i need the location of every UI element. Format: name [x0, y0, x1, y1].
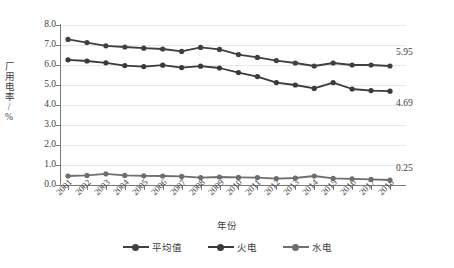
data-point	[198, 64, 203, 69]
data-point	[103, 43, 108, 48]
data-point	[387, 177, 392, 182]
data-point	[217, 47, 222, 52]
data-point	[236, 52, 241, 57]
data-point	[293, 60, 298, 65]
data-point	[198, 45, 203, 50]
data-point	[160, 63, 165, 68]
data-point	[255, 175, 260, 180]
end-value-label: 4.69	[396, 98, 413, 108]
data-point	[312, 86, 317, 91]
data-point	[141, 46, 146, 51]
data-point	[274, 58, 279, 63]
series-2	[65, 171, 392, 182]
data-point	[141, 64, 146, 69]
legend-label: 火电	[237, 240, 257, 254]
data-point	[179, 174, 184, 179]
data-point	[350, 86, 355, 91]
end-value-label: 5.95	[396, 47, 413, 57]
data-point	[84, 173, 89, 178]
x-axis-title: 年份	[0, 218, 454, 232]
data-point	[387, 63, 392, 68]
legend-item-0[interactable]: 平均值	[123, 240, 182, 254]
chart-legend: 平均值火电水电	[0, 240, 454, 254]
data-point	[103, 171, 108, 176]
data-point	[179, 49, 184, 54]
data-point	[255, 74, 260, 79]
data-point	[274, 176, 279, 181]
data-point	[84, 40, 89, 45]
data-point	[122, 173, 127, 178]
data-point	[217, 65, 222, 70]
data-point	[198, 175, 203, 180]
data-point	[387, 89, 392, 94]
data-point	[350, 176, 355, 181]
data-point	[312, 63, 317, 68]
chart-container: 厂用电率/% 0.01.02.03.04.05.06.07.08.0 20012…	[0, 0, 454, 268]
data-point	[65, 173, 70, 178]
series-line	[68, 39, 390, 66]
data-point	[122, 63, 127, 68]
data-point	[255, 55, 260, 60]
legend-label: 平均值	[152, 240, 182, 254]
data-point	[331, 176, 336, 181]
data-point	[141, 173, 146, 178]
data-point	[368, 62, 373, 67]
data-point	[84, 58, 89, 63]
data-point	[293, 175, 298, 180]
data-point	[368, 177, 373, 182]
data-point	[331, 80, 336, 85]
data-point	[160, 46, 165, 51]
data-point	[312, 173, 317, 178]
data-point	[65, 37, 70, 42]
data-point	[236, 175, 241, 180]
legend-item-2[interactable]: 水电	[283, 240, 332, 254]
legend-label: 水电	[312, 240, 332, 254]
data-point	[65, 57, 70, 62]
data-point	[217, 174, 222, 179]
data-point	[160, 173, 165, 178]
legend-swatch-icon	[123, 243, 149, 252]
legend-item-1[interactable]: 火电	[208, 240, 257, 254]
data-point	[368, 88, 373, 93]
legend-swatch-icon	[208, 243, 234, 252]
data-point	[293, 82, 298, 87]
series-line	[68, 174, 390, 180]
legend-swatch-icon	[283, 243, 309, 252]
data-point	[103, 60, 108, 65]
series-1	[65, 57, 392, 94]
data-point	[274, 80, 279, 85]
data-point	[350, 62, 355, 67]
data-point	[236, 70, 241, 75]
data-point	[331, 60, 336, 65]
end-value-label: 0.25	[396, 163, 413, 173]
data-point	[179, 65, 184, 70]
data-point	[122, 44, 127, 49]
